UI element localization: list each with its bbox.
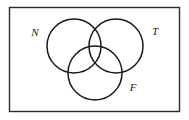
set-label-n: N (30, 26, 39, 38)
set-label-t: T (152, 25, 159, 37)
venn-diagram-canvas: N T F (0, 0, 189, 120)
universal-set-rectangle (10, 8, 180, 112)
venn-diagram-figure: N T F (0, 0, 189, 120)
set-label-f: F (129, 81, 137, 93)
